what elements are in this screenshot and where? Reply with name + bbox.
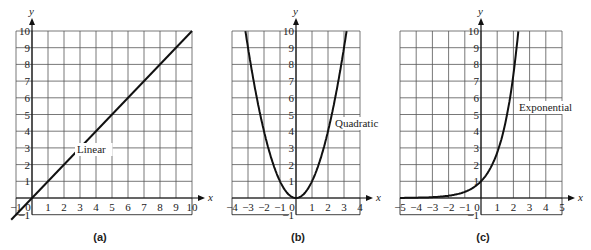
x-arrow-icon [568,195,575,201]
y-tick-label: 5 [474,109,480,121]
y-tick-label: 7 [474,75,480,87]
x-tick-label: 3 [527,201,533,213]
x-tick-label: 1 [494,201,500,213]
y-tick-label: 4 [289,125,295,137]
x-tick-label: 10 [187,201,199,213]
x-tick-label: 2 [511,201,517,213]
x-tick-label: 1 [45,201,51,213]
y-axis-label: y [28,5,34,17]
x-tick-label: −2 [443,201,455,213]
panel-label: (a) [93,231,107,243]
y-tick-label: 3 [289,142,295,154]
y-tick-label: 2 [289,159,295,171]
x-tick-label: 3 [77,201,83,213]
x-tick-label: 3 [341,201,347,213]
chart-panel-a: xy−1012345678910−112345678910Linear(a) [10,5,213,243]
y-tick-label: 9 [289,42,295,54]
y-tick-label: 5 [289,109,295,121]
y-tick-label: 6 [289,92,295,104]
y-tick-label: 10 [468,25,480,37]
x-tick-label: 6 [125,201,131,213]
x-arrow-icon [366,195,373,201]
x-tick-label: 5 [109,201,115,213]
y-tick-label: 7 [289,75,295,87]
y-tick-label: 8 [289,58,295,70]
y-tick-label: 2 [25,159,31,171]
y-arrow-icon [293,18,299,25]
x-tick-label: −4 [226,201,238,213]
y-tick-label: 5 [25,109,31,121]
curve-label: Linear [77,143,106,155]
y-tick-label: −1 [467,209,479,221]
x-tick-label: 2 [61,201,67,213]
y-tick-label: 6 [25,92,31,104]
x-tick-label: 5 [559,201,565,213]
function-curve [11,31,192,220]
chart-panel-b: xy−4−3−2−101234−112345678910Quadratic(b) [226,5,387,243]
x-tick-label: −4 [410,201,422,213]
y-tick-label: 1 [25,175,31,187]
y-tick-label: 9 [474,42,480,54]
y-tick-label: 10 [283,25,295,37]
x-axis-label: x [375,191,381,203]
x-tick-label: 8 [157,201,163,213]
y-tick-label: 3 [474,142,480,154]
y-axis-label: y [292,5,298,17]
curve-label: Exponential [519,101,572,113]
y-tick-label: 10 [19,25,31,37]
panel-label: (c) [476,231,490,243]
y-axis-label: y [477,5,483,17]
curve-label: Quadratic [335,117,378,129]
x-axis-label: x [207,191,213,203]
y-arrow-icon [478,18,484,25]
x-tick-label: −2 [258,201,270,213]
y-tick-label: 4 [25,125,31,137]
panel-label: (b) [291,231,305,243]
x-tick-label: 2 [325,201,331,213]
x-axis-label: x [577,191,583,203]
function-graphs-figure: xy−1012345678910−112345678910Linear(a)xy… [0,0,591,250]
x-tick-label: −3 [427,201,439,213]
x-tick-label: 7 [141,201,147,213]
y-tick-label: −1 [282,209,294,221]
x-tick-label: 4 [357,201,363,213]
x-tick-label: 4 [543,201,549,213]
y-tick-label: 8 [25,58,31,70]
y-arrow-icon [29,18,35,25]
y-tick-label: 2 [474,159,480,171]
y-tick-label: 7 [25,75,31,87]
x-tick-label: 9 [173,201,179,213]
x-tick-label: −5 [394,201,406,213]
y-tick-label: 1 [289,175,295,187]
y-tick-label: 9 [25,42,31,54]
y-tick-label: 4 [474,125,480,137]
y-tick-label: 8 [474,58,480,70]
x-tick-label: −3 [242,201,254,213]
x-tick-label: 1 [309,201,315,213]
x-tick-label: 4 [93,201,99,213]
grid [16,31,192,198]
chart-panel-c: xy−5−4−3−2−1012345−112345678910Exponenti… [394,5,583,243]
x-arrow-icon [198,195,205,201]
y-tick-label: 3 [25,142,31,154]
y-tick-label: 6 [474,92,480,104]
